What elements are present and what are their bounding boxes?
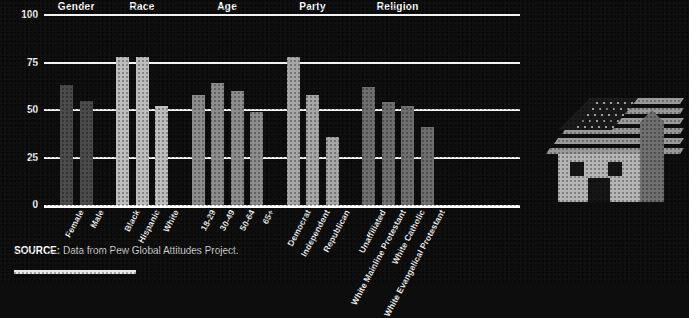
bar-female[interactable] [60, 85, 73, 205]
group-header-party: Party [299, 1, 326, 12]
bar-18-29[interactable] [192, 95, 205, 205]
category-label-18-29: 18-29 [198, 208, 217, 232]
group-header-race: Race [129, 1, 154, 12]
y-axis-tick-75: 75 [2, 57, 38, 68]
gridline-100 [44, 14, 520, 16]
group-header-religion: Religion [377, 1, 419, 12]
source-prefix: SOURCE: [14, 245, 60, 256]
y-axis-tick-100: 100 [2, 9, 38, 20]
group-header-gender: Gender [58, 1, 95, 12]
gridline-0 [44, 205, 520, 208]
category-label-black: Black [122, 208, 142, 233]
category-label-65-: 65+ [260, 208, 276, 226]
category-label-50-64: 50-64 [237, 208, 256, 232]
y-axis-tick-50: 50 [2, 104, 38, 115]
bar-independent[interactable] [306, 95, 319, 205]
plot-area [44, 15, 520, 205]
bar-male[interactable] [80, 101, 93, 206]
group-header-age: Age [217, 1, 237, 12]
bar-65-[interactable] [250, 112, 263, 205]
bar-black[interactable] [116, 57, 129, 205]
category-label-30-49: 30-49 [218, 208, 237, 232]
category-label-white: White [161, 208, 181, 234]
bar-50-64[interactable] [231, 91, 244, 205]
source-rule [14, 270, 136, 274]
y-axis-tick-25: 25 [2, 152, 38, 163]
bar-white-mainline-protestant[interactable] [382, 102, 395, 205]
category-label-female: Female [63, 208, 86, 239]
bar-white-evangelical-protestant[interactable] [421, 127, 434, 205]
bar-hispanic[interactable] [136, 57, 149, 205]
source-note: SOURCE: Data from Pew Global Attitudes P… [14, 245, 239, 256]
y-axis-tick-0: 0 [2, 199, 38, 210]
bar-white[interactable] [155, 106, 168, 205]
bar-white-catholic[interactable] [401, 106, 414, 205]
bar-unaffiliated[interactable] [362, 87, 375, 205]
bar-30-49[interactable] [211, 83, 224, 205]
house-with-american-flag-roof-icon [534, 92, 684, 202]
bar-republican[interactable] [326, 137, 339, 205]
source-text: Data from Pew Global Attitudes Project. [60, 245, 238, 256]
bar-democrat[interactable] [287, 57, 300, 205]
category-label-male: Male [87, 208, 105, 230]
